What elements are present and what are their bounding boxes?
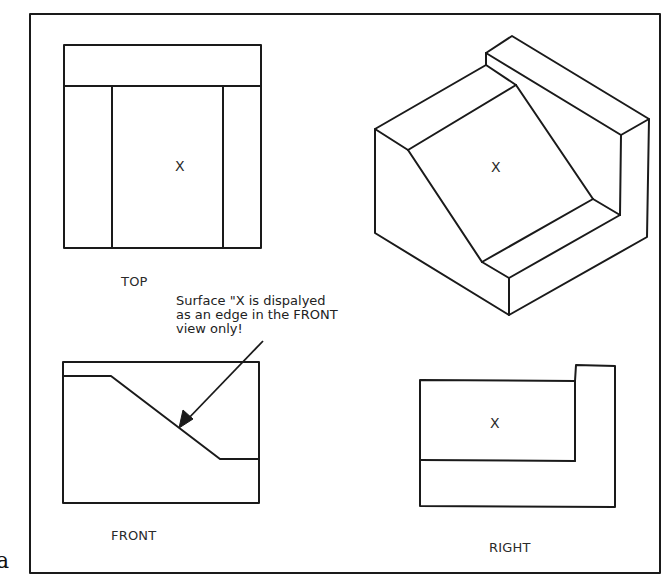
isometric-surface-mark: X [491,159,501,175]
drawing-canvas [0,0,668,582]
right-view-surface-mark: X [490,415,500,431]
arrowhead-icon [179,410,193,428]
right-view [420,365,615,507]
annotation-line-1: Surface "X is dispalyed [176,294,338,308]
isometric-view [375,36,649,315]
annotation-note: Surface "X is dispalyed as an edge in th… [176,294,338,336]
leader-arrow [179,341,263,428]
annotation-line-3: view only! [176,322,338,336]
front-view-label: FRONT [111,528,156,543]
annotation-line-2: as an edge in the FRONT [176,308,338,322]
figure-letter: a [0,548,9,573]
top-view-surface-mark: X [175,158,185,174]
top-view [64,45,261,248]
right-view-label: RIGHT [489,540,531,555]
drawing-border [30,14,660,573]
front-view [63,362,259,503]
top-view-label: TOP [121,274,148,289]
